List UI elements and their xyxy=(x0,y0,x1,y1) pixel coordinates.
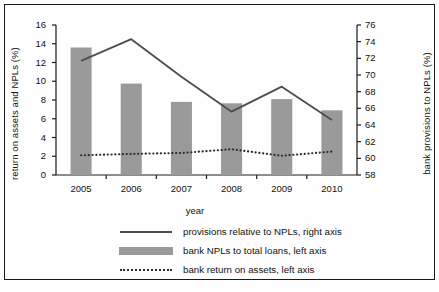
bar xyxy=(221,103,242,175)
bar xyxy=(171,102,192,175)
legend-item-roa: bank return on assets, left axis xyxy=(118,260,418,279)
bar xyxy=(321,110,342,175)
provisions-line xyxy=(81,39,332,120)
gray-bar-key xyxy=(118,245,174,257)
figure-container: return on assets and NPLs (%) bank provi… xyxy=(0,0,439,292)
dotted-line-key xyxy=(118,264,174,276)
legend-item-npls: bank NPLs to total loans, left axis xyxy=(118,241,418,260)
legend-label: bank return on assets, left axis xyxy=(183,264,314,275)
solid-line-key xyxy=(118,226,174,238)
legend-label: provisions relative to NPLs, right axis xyxy=(183,226,342,237)
bar xyxy=(271,99,292,175)
bar xyxy=(121,84,142,175)
chart-legend: provisions relative to NPLs, right axis … xyxy=(118,222,418,279)
legend-item-provisions: provisions relative to NPLs, right axis xyxy=(118,222,418,241)
legend-label: bank NPLs to total loans, left axis xyxy=(183,245,326,256)
roa-line xyxy=(81,149,332,156)
